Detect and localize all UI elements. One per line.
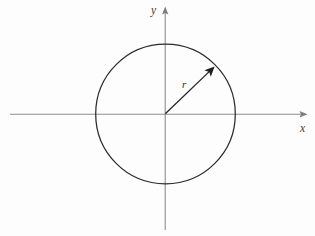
radius-label: r [182, 78, 187, 90]
y-axis-label: y [150, 4, 157, 17]
x-axis-label: x [299, 122, 306, 134]
radius-line [165, 70, 210, 113]
circle-radius-diagram: y x r [0, 0, 315, 236]
figure-canvas: y x r [0, 0, 315, 236]
x-axis-group [10, 111, 308, 117]
radius-vector-group [165, 67, 214, 114]
y-axis-group [162, 7, 168, 231]
